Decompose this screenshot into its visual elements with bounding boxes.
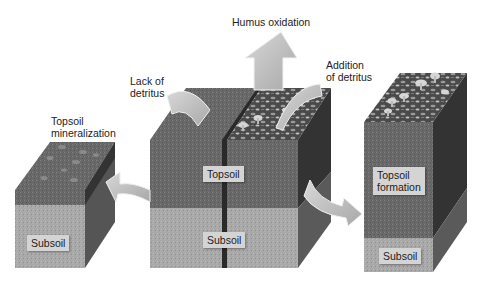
left-subsoil-tag: Subsoil	[27, 235, 69, 251]
addition-of-detritus-label: Addition of detritus	[326, 59, 372, 83]
center-topsoil-tag: Topsoil	[203, 166, 244, 182]
soil-diagram: Humus oxidation Lack of detritus Additio…	[0, 0, 479, 283]
topsoil-mineralization-label: Topsoil mineralization	[51, 115, 116, 139]
humus-oxidation-label: Humus oxidation	[232, 16, 310, 28]
left-block-front-topsoil	[15, 190, 85, 205]
lack-of-detritus-label: Lack of detritus	[130, 75, 164, 99]
right-subsoil-tag: Subsoil	[379, 248, 421, 264]
center-subsoil-tag: Subsoil	[203, 232, 245, 248]
humus-oxidation-arrow	[245, 32, 297, 90]
right-topsoil-formation-tag: Topsoil formation	[373, 167, 425, 195]
